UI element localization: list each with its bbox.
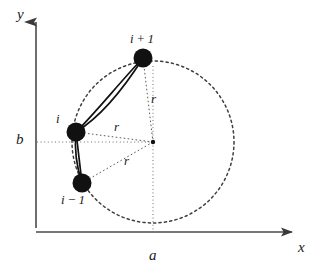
y-axis-label: y — [17, 7, 24, 22]
a-coordinate-label: a — [149, 248, 157, 263]
radius-label-top: r — [151, 92, 156, 105]
diagram-vector-layer — [0, 0, 321, 272]
b-coordinate-label: b — [16, 132, 24, 147]
radius-line-to-i-minus-1 — [82, 142, 153, 183]
node-label-i: i — [56, 112, 60, 125]
node-label-i-minus-1: i − 1 — [61, 193, 85, 206]
node-label-i-plus-1: i + 1 — [130, 32, 154, 45]
node-i-marker — [67, 123, 86, 142]
coordinate-guides — [37, 66, 153, 231]
circle-center-point — [151, 140, 155, 144]
x-axis-label: x — [298, 240, 305, 255]
chord-i-to-i-plus-1-outer — [76, 58, 143, 132]
node-i-plus-1-marker — [134, 49, 153, 68]
radius-label-bottom: r — [124, 154, 129, 167]
diagram-canvas: y x b a i + 1 i i − 1 r r r — [0, 0, 321, 272]
node-i-minus-1-marker — [73, 174, 92, 193]
radius-label-middle: r — [114, 120, 119, 133]
chord-lines — [75, 58, 143, 183]
